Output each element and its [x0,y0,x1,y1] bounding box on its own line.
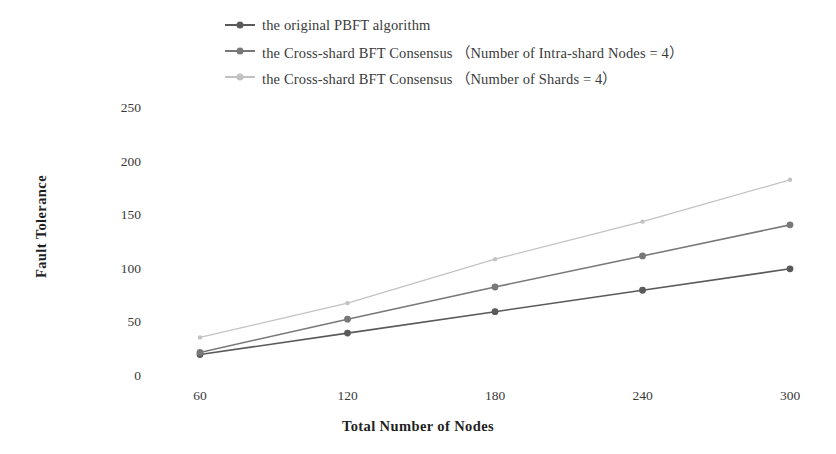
data-point-marker [492,284,499,291]
plot-area: 050100150200250 60120180240300 [0,0,836,454]
data-point-marker [787,265,794,272]
series-line-1 [197,221,794,355]
chart-canvas [0,0,836,454]
y-tick-label: 0 [95,368,141,384]
data-point-marker [198,335,202,339]
data-point-marker [639,287,646,294]
data-point-marker [787,221,794,228]
data-point-marker [345,301,349,305]
y-tick-label: 150 [95,207,141,223]
chart-figure: the original PBFT algorithm the Cross-sh… [0,0,836,454]
x-tick-label: 240 [613,388,673,404]
data-point-marker [639,253,646,260]
y-axis-title: Fault Tolerance [33,175,50,278]
y-tick-label: 200 [95,154,141,170]
x-axis-title: Total Number of Nodes [0,418,836,435]
data-point-marker [197,349,204,356]
data-point-marker [344,316,351,323]
y-tick-label: 50 [95,314,141,330]
y-tick-label: 250 [95,100,141,116]
series-line-0 [197,265,794,358]
x-tick-label: 120 [318,388,378,404]
x-tick-label: 300 [760,388,820,404]
series-line-2 [198,178,792,340]
data-point-marker [493,257,497,261]
y-tick-label: 100 [95,261,141,277]
data-point-marker [492,308,499,315]
x-tick-label: 180 [465,388,525,404]
x-tick-label: 60 [170,388,230,404]
data-point-marker [344,330,351,337]
data-point-marker [640,219,644,223]
data-point-marker [788,178,792,182]
